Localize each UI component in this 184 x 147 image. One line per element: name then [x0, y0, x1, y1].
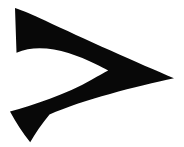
chevron-right-icon	[0, 0, 184, 147]
glyph-canvas	[0, 0, 184, 147]
